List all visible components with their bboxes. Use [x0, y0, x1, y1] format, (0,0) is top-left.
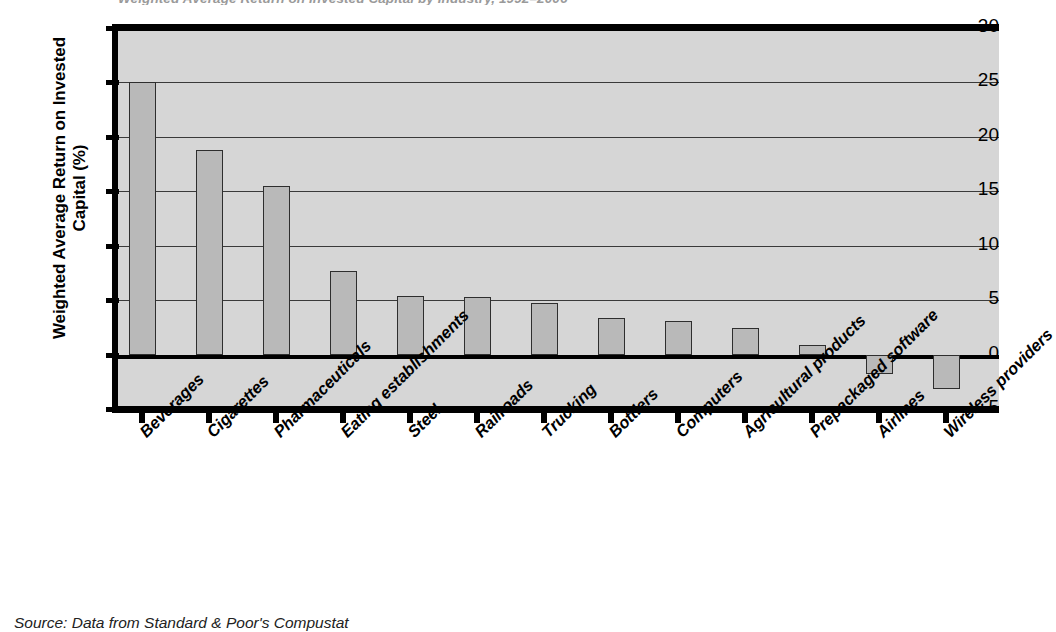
- bar: [129, 82, 156, 354]
- y-tick-30: [106, 26, 119, 31]
- gridline-20: [118, 137, 999, 138]
- plot-top-border: [118, 24, 999, 31]
- y-tick-15: [106, 189, 119, 194]
- y-axis-title: Weighted Average Return on Invested Capi…: [50, 8, 90, 368]
- y-tick-label-0: 0: [903, 342, 999, 364]
- y-tick-20: [106, 135, 119, 140]
- gridline-5: [118, 300, 999, 301]
- y-tick-0: [106, 353, 119, 358]
- source-note: Source: Data from Standard & Poor's Comp…: [14, 614, 349, 632]
- y-tick-label-20: 20: [903, 124, 999, 146]
- y-tick-label-15: 15: [903, 178, 999, 200]
- y-tick-label-5: 5: [903, 287, 999, 309]
- bar: [330, 271, 357, 355]
- y-tick-5: [106, 298, 119, 303]
- gridline-10: [118, 246, 999, 247]
- bar: [196, 150, 223, 355]
- bar: [732, 328, 759, 354]
- bar: [531, 303, 558, 354]
- bar: [464, 297, 491, 355]
- y-tick-25: [106, 80, 119, 85]
- y-tick-label-10: 10: [903, 233, 999, 255]
- y-tick-10: [106, 244, 119, 249]
- bar: [665, 321, 692, 355]
- y-tick-label-30: 30: [903, 15, 999, 37]
- y-tick-label-25: 25: [903, 69, 999, 91]
- plot-area: [118, 28, 999, 409]
- chart-title: Weighted Average Return on Invested Capi…: [118, 0, 818, 5]
- gridline-25: [118, 82, 999, 83]
- y-tick--5: [106, 407, 119, 412]
- bar: [598, 318, 625, 355]
- gridline-15: [118, 191, 999, 192]
- bar: [263, 186, 290, 355]
